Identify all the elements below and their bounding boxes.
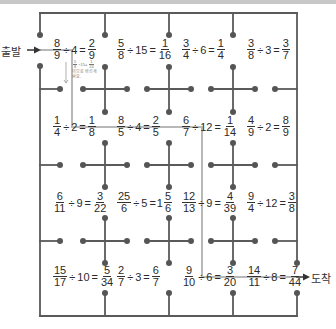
dividend-fraction-denominator: 9 bbox=[247, 127, 255, 138]
divide-sign: ÷ bbox=[198, 197, 204, 209]
result-fraction-denominator: 4 bbox=[217, 50, 225, 61]
divisor: 10 bbox=[77, 271, 89, 283]
dividend-fraction: 1213 bbox=[182, 191, 196, 214]
dividend-fraction-denominator: 17 bbox=[53, 277, 67, 288]
dividend-fraction-denominator: 4 bbox=[182, 50, 190, 61]
solution-path bbox=[40, 50, 296, 277]
equation-r3-c4: 94÷12=38 bbox=[246, 191, 297, 214]
divide-sign: ÷ bbox=[257, 121, 263, 133]
dividend-fraction: 85 bbox=[117, 115, 125, 138]
divide-sign: ÷ bbox=[63, 44, 69, 56]
result-fraction: 29 bbox=[88, 38, 96, 61]
result-fraction-denominator: 5 bbox=[152, 127, 160, 138]
end-label: 도착 bbox=[311, 270, 331, 286]
equals-sign: = bbox=[143, 271, 149, 283]
result-fraction-denominator: 22 bbox=[93, 203, 107, 214]
dividend-fraction: 14 bbox=[53, 115, 61, 138]
start-label: 출발 bbox=[1, 43, 21, 59]
equals-sign: = bbox=[214, 271, 220, 283]
equals-sign: = bbox=[79, 44, 85, 56]
dividend-fraction: 611 bbox=[53, 191, 66, 214]
result-fraction-denominator: 7 bbox=[152, 277, 160, 288]
note-op: ÷15= bbox=[78, 62, 87, 67]
divide-sign: ÷ bbox=[133, 197, 139, 209]
dividend-fraction: 34 bbox=[182, 38, 190, 61]
result-fraction-denominator: 8 bbox=[88, 127, 96, 138]
equals-sign: = bbox=[279, 271, 285, 283]
divisor: 4 bbox=[71, 44, 77, 56]
equals-sign: = bbox=[149, 44, 155, 56]
equation-r2-c2: 85÷4=25 bbox=[116, 115, 161, 138]
dividend-fraction-denominator: 7 bbox=[182, 127, 190, 138]
dividend-fraction: 94 bbox=[247, 191, 255, 214]
result-fraction: 322 bbox=[93, 191, 107, 214]
divisor: 12 bbox=[200, 121, 212, 133]
dividend-fraction: 38 bbox=[247, 38, 255, 61]
divisor: 2 bbox=[265, 121, 271, 133]
divide-sign: ÷ bbox=[69, 271, 75, 283]
equals-sign: = bbox=[208, 44, 214, 56]
result-fraction: 89 bbox=[282, 115, 290, 138]
dividend-fraction-denominator: 8 bbox=[247, 50, 255, 61]
equation-r2-c3: 67÷12=114 bbox=[181, 115, 238, 138]
equation-r4-c1: 1517÷10=534 bbox=[52, 265, 115, 288]
equation-r3-c2: 256÷5=156 bbox=[116, 191, 173, 214]
result-fraction-denominator: 16 bbox=[158, 50, 172, 61]
equation-r2-c4: 49÷2=89 bbox=[246, 115, 291, 138]
equals-sign: = bbox=[273, 44, 279, 56]
divisor: 15 bbox=[135, 44, 147, 56]
start-arrow-icon bbox=[27, 47, 41, 54]
equation-r4-c3: 910÷6=320 bbox=[181, 265, 238, 288]
equation-r2-c1: 14÷2=18 bbox=[52, 115, 97, 138]
equals-sign: = bbox=[214, 197, 220, 209]
result-fraction: 534 bbox=[100, 265, 114, 288]
dividend-fraction: 910 bbox=[182, 265, 196, 288]
result-fraction-denominator: 8 bbox=[288, 203, 296, 214]
dividend-fraction: 49 bbox=[247, 115, 255, 138]
equation-r1-c4: 38÷3=37 bbox=[246, 38, 291, 61]
equals-sign: = bbox=[79, 121, 85, 133]
divide-sign: ÷ bbox=[63, 121, 69, 133]
result-fraction: 439 bbox=[223, 191, 237, 214]
equation-r3-c1: 611÷9=322 bbox=[52, 191, 108, 214]
divisor: 2 bbox=[71, 121, 77, 133]
equation-r1-c3: 34÷6=14 bbox=[181, 38, 226, 61]
dividend-fraction-denominator: 11 bbox=[247, 277, 260, 288]
divide-sign: ÷ bbox=[192, 121, 198, 133]
dividend-fraction-denominator: 7 bbox=[117, 277, 125, 288]
dividend-fraction-denominator: 9 bbox=[53, 50, 61, 61]
dividend-fraction: 67 bbox=[182, 115, 190, 138]
dividend-fraction-denominator: 11 bbox=[53, 203, 66, 214]
divide-sign: ÷ bbox=[257, 44, 263, 56]
divisor: 6 bbox=[206, 271, 212, 283]
divisor: 3 bbox=[265, 44, 271, 56]
result-fraction-denominator: 34 bbox=[100, 277, 114, 288]
dividend-fraction: 1517 bbox=[53, 265, 67, 288]
divisor: 12 bbox=[265, 197, 277, 209]
divisor: 8 bbox=[271, 271, 277, 283]
dividend-fraction: 89 bbox=[53, 38, 61, 61]
result-fraction: 25 bbox=[152, 115, 160, 138]
result-fraction: 116 bbox=[158, 38, 172, 61]
equation-r1-c2: 58÷15=116 bbox=[116, 38, 173, 61]
result-fraction: 37 bbox=[282, 38, 290, 61]
note-line2: 써요. bbox=[72, 74, 97, 79]
dividend-fraction-denominator: 5 bbox=[117, 127, 125, 138]
result-fraction: 114 bbox=[223, 115, 237, 138]
result-fraction-denominator: 7 bbox=[282, 50, 290, 61]
dividend-fraction-denominator: 10 bbox=[182, 277, 196, 288]
dividend-fraction: 1411 bbox=[247, 265, 261, 288]
result-fraction: 67 bbox=[152, 265, 160, 288]
divide-sign: ÷ bbox=[257, 197, 263, 209]
result-fraction: 38 bbox=[288, 191, 296, 214]
divide-sign: ÷ bbox=[198, 271, 204, 283]
divisor: 5 bbox=[141, 197, 147, 209]
dividend-fraction-denominator: 13 bbox=[182, 203, 196, 214]
dividend-fraction: 58 bbox=[117, 38, 125, 61]
equation-r1-c1: 89÷4=29 bbox=[52, 38, 97, 61]
divide-sign: ÷ bbox=[192, 44, 198, 56]
result-fraction: 744 bbox=[288, 265, 302, 288]
equals-sign: = bbox=[92, 271, 98, 283]
divide-sign: ÷ bbox=[263, 271, 269, 283]
dividend-fraction-denominator: 4 bbox=[53, 127, 61, 138]
